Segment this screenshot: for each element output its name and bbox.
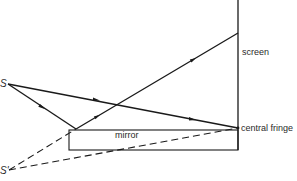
direct-ray-arrow-icon — [93, 98, 100, 101]
central-fringe-label: central fringe — [241, 123, 293, 133]
source-label: S — [0, 78, 7, 89]
direct-ray-arrow-icon — [189, 117, 196, 121]
lloyds-mirror-diagram: S S' screen mirror central fringe — [0, 0, 297, 181]
screen-label: screen — [242, 47, 269, 57]
reflected-ray — [76, 33, 238, 129]
mirror-block — [69, 130, 238, 150]
mirror-label: mirror — [115, 130, 139, 140]
central-fringe-point — [237, 127, 240, 130]
virtual-source-label: S' — [0, 165, 10, 176]
